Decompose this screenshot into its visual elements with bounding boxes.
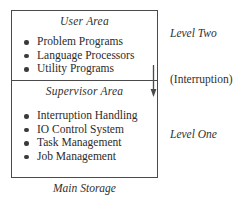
main-storage-diagram: User Area Problem Programs Language Proc… xyxy=(0,0,246,203)
list-item: Problem Programs xyxy=(24,35,134,49)
list-item: Utility Programs xyxy=(24,62,134,76)
list-item-label: Job Management xyxy=(37,150,116,162)
interruption-arrow-icon xyxy=(149,65,158,98)
list-item: Interruption Handling xyxy=(24,109,138,123)
list-item-label: Task Management xyxy=(37,136,121,148)
interruption-label: (Interruption) xyxy=(170,73,233,85)
bullet-icon xyxy=(24,40,29,45)
level-one-label: Level One xyxy=(170,128,217,140)
list-item-label: Utility Programs xyxy=(37,62,114,74)
list-item: IO Control System xyxy=(24,123,138,137)
area-divider-line xyxy=(11,80,158,81)
bullet-icon xyxy=(24,155,29,160)
list-item-label: Problem Programs xyxy=(37,35,123,47)
supervisor-area-item-list: Interruption Handling IO Control System … xyxy=(24,109,138,163)
supervisor-area-title: Supervisor Area xyxy=(11,85,158,97)
list-item-label: Interruption Handling xyxy=(37,109,138,121)
level-two-label: Level Two xyxy=(170,27,217,39)
bullet-icon xyxy=(24,141,29,146)
bullet-icon xyxy=(24,128,29,133)
list-item: Language Processors xyxy=(24,49,134,63)
list-item: Task Management xyxy=(24,136,138,150)
bullet-icon xyxy=(24,114,29,119)
list-item-label: Language Processors xyxy=(37,49,134,61)
user-area-item-list: Problem Programs Language Processors Uti… xyxy=(24,35,134,76)
user-area-title: User Area xyxy=(11,15,158,27)
list-item-label: IO Control System xyxy=(37,123,124,135)
bullet-icon xyxy=(24,54,29,59)
list-item: Job Management xyxy=(24,150,138,164)
bullet-icon xyxy=(24,67,29,72)
diagram-caption: Main Storage xyxy=(11,182,158,194)
